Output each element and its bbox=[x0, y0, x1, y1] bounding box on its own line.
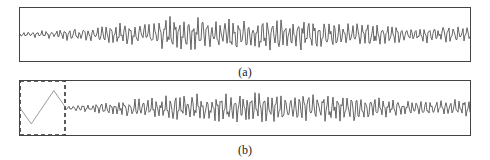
caption-a: (a) bbox=[0, 65, 490, 79]
signal-panel-a bbox=[19, 7, 471, 62]
triangle-trigger-wave bbox=[20, 91, 65, 124]
signal-plot-a bbox=[20, 8, 470, 61]
caption-b: (b) bbox=[0, 143, 490, 157]
signal-panel-b bbox=[19, 80, 471, 136]
signal-plot-b bbox=[20, 81, 470, 135]
signal-line bbox=[20, 16, 470, 50]
signal-line bbox=[65, 93, 470, 122]
